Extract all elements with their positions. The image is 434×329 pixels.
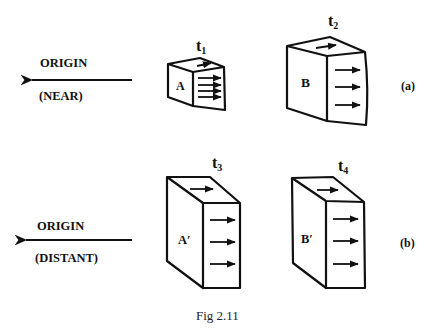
block-a-top-arrow	[197, 63, 211, 66]
time-label-t4: t4	[338, 157, 348, 176]
block-b-top-arrow	[316, 45, 336, 48]
origin-qualifier-a: (NEAR)	[39, 89, 83, 103]
block-a-prime: t3 A′	[167, 154, 240, 288]
block-b-prime-name: B′	[301, 232, 313, 246]
panel-label-a: (a)	[401, 79, 415, 93]
time-label-t3: t3	[212, 154, 222, 173]
panel-b: ORIGIN (DISTANT) t3 A′ t4 B′ (b)	[26, 154, 415, 288]
figure-canvas: ORIGIN (NEAR) t1 A t2 B (	[0, 0, 434, 329]
block-b-name: B	[301, 75, 310, 90]
time-label-t1: t1	[196, 37, 206, 56]
origin-title-a: ORIGIN	[40, 56, 87, 70]
origin-title-b: ORIGIN	[37, 219, 84, 233]
time-label-t2: t2	[328, 12, 338, 31]
block-a-name: A	[176, 79, 185, 93]
block-a-prime-name: A′	[178, 233, 191, 247]
panel-label-b: (b)	[400, 236, 415, 250]
block-b-prime-right-face	[326, 202, 365, 288]
panel-a: ORIGIN (NEAR) t1 A t2 B (	[32, 12, 415, 125]
block-a-prime-top-face	[167, 177, 240, 203]
block-b: t2 B	[287, 12, 367, 125]
block-a-prime-right-face	[203, 203, 240, 288]
origin-qualifier-b: (DISTANT)	[35, 251, 98, 265]
block-b-prime: t4 B′	[292, 157, 365, 288]
block-a-right-face	[193, 67, 225, 110]
block-a-top-face	[168, 58, 224, 72]
block-a: t1 A	[168, 37, 225, 110]
block-b-right-face	[327, 52, 367, 125]
figure-caption: Fig 2.11	[196, 308, 239, 323]
